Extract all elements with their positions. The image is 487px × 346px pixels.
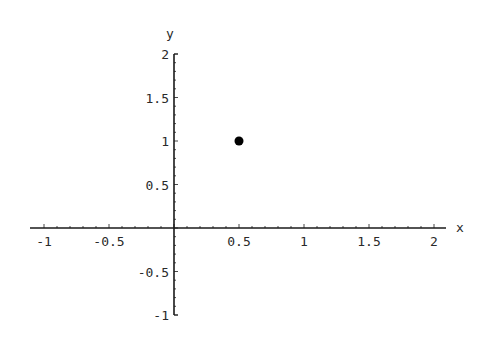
- tick-labels: -1-0.50.511.52-1-0.50.511.52: [36, 47, 438, 323]
- x-tick-label: -1: [36, 234, 52, 249]
- y-tick-label: -0.5: [138, 265, 169, 280]
- scatter-plot: -1-0.50.511.52-1-0.50.511.52 x y: [0, 0, 487, 346]
- x-tick-label: 2: [430, 234, 438, 249]
- y-tick-label: 2: [161, 47, 169, 62]
- data-point: [235, 137, 244, 146]
- x-tick-label: 1.5: [357, 234, 380, 249]
- y-tick-label: -1: [153, 308, 169, 323]
- y-tick-label: 1: [161, 134, 169, 149]
- x-tick-label: -0.5: [93, 234, 124, 249]
- y-tick-label: 1.5: [146, 91, 169, 106]
- x-tick-label: 1: [300, 234, 308, 249]
- x-axis-label: x: [456, 220, 464, 235]
- y-axis-label: y: [166, 26, 174, 41]
- x-tick-label: 0.5: [227, 234, 250, 249]
- y-tick-label: 0.5: [146, 178, 169, 193]
- axes: [30, 54, 446, 315]
- data-points: [235, 137, 244, 146]
- tick-marks: [44, 54, 434, 315]
